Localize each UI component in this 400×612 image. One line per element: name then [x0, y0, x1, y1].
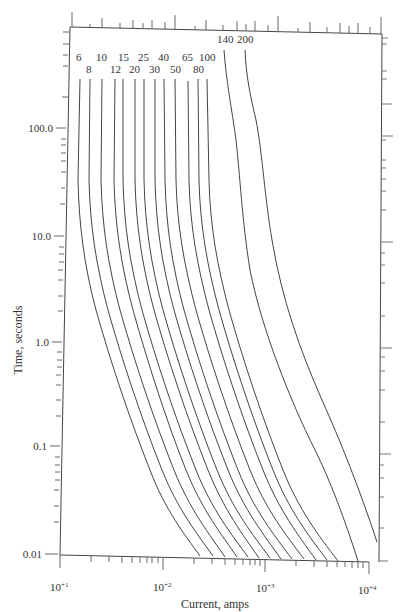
x-tick-1000: 10+3 — [256, 582, 275, 594]
curve-6 — [78, 79, 200, 556]
curve-label-12: 12 — [110, 63, 121, 75]
curve-label-200: 200 — [237, 33, 254, 45]
x-axis-title: Current, amps — [181, 597, 249, 611]
curve-label-80: 80 — [193, 63, 205, 75]
x-tick-10: 10+1 — [50, 581, 69, 593]
curve-label-100: 100 — [199, 51, 216, 63]
curve-label-140: 140 — [217, 33, 234, 45]
curve-labels: 6 10 15 25 40 65 100 8 12 20 30 50 80 14… — [76, 33, 254, 75]
time-current-chart: 6 10 15 25 40 65 100 8 12 20 30 50 80 14… — [0, 0, 400, 612]
curve-label-15: 15 — [118, 51, 130, 63]
plot-frame — [60, 27, 382, 562]
fuse-curves — [78, 50, 377, 561]
curve-8 — [89, 79, 213, 556]
curve-label-25: 25 — [138, 51, 150, 63]
curve-label-20: 20 — [129, 63, 141, 75]
curve-label-50: 50 — [170, 63, 182, 75]
y-tick-10: 10.0 — [32, 230, 52, 242]
bottom-axis-ticks — [60, 555, 369, 574]
y-tick-1: 1.0 — [35, 336, 49, 348]
y-tick-100: 100.0 — [28, 122, 53, 134]
curve-50 — [175, 79, 304, 559]
curve-label-6: 6 — [76, 51, 82, 63]
curve-label-30: 30 — [149, 63, 161, 75]
curve-10 — [101, 79, 225, 557]
curve-label-8: 8 — [86, 63, 92, 75]
x-tick-labels: 10+1 10+2 10+3 10+4 — [50, 581, 377, 596]
curve-label-10: 10 — [96, 51, 108, 63]
curve-200 — [245, 50, 377, 542]
x-tick-100: 10+2 — [153, 581, 172, 593]
curve-20 — [135, 79, 259, 558]
curve-15 — [123, 79, 248, 557]
x-tick-10000: 10+4 — [358, 584, 377, 596]
y-tick-labels: 100.0 10.0 1.0 0.1 0.01 — [23, 122, 54, 560]
curve-100 — [207, 79, 338, 561]
curve-40 — [164, 79, 292, 559]
y-tick-0.01: 0.01 — [23, 548, 42, 560]
curve-label-40: 40 — [158, 51, 170, 63]
y-tick-0.1: 0.1 — [33, 440, 47, 452]
curve-label-65: 65 — [182, 51, 194, 63]
curve-25 — [144, 79, 270, 558]
curve-65 — [188, 81, 316, 560]
y-axis-title: Time, seconds — [11, 305, 25, 374]
